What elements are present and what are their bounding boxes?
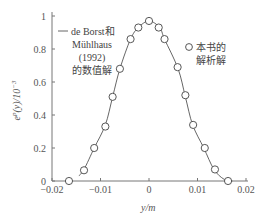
y-tick-label: 0.2: [34, 143, 47, 154]
analytical-solution-point: [211, 166, 218, 173]
analytical-solution-point: [182, 92, 189, 99]
x-axis-title: y/m: [140, 202, 155, 213]
legend-circle-icon: [186, 44, 193, 51]
x-tick-label: −0.01: [89, 184, 112, 195]
legend-label-numerical: 的数值解: [72, 64, 112, 76]
y-axis-title: ep(y)/10−3: [10, 80, 23, 121]
y-tick-label: 0: [41, 176, 46, 187]
y-tick-label: 0.4: [34, 110, 47, 121]
legend-label-analytical: 解析解: [196, 54, 226, 66]
x-tick-label: 0.01: [189, 184, 207, 195]
analytical-solution-point: [80, 167, 87, 174]
legend-label-analytical: 本书的: [196, 41, 226, 53]
analytical-solution-point: [102, 123, 109, 130]
legend-label-numerical: (1992): [79, 52, 106, 64]
analytical-solution-point: [145, 17, 152, 24]
analytical-solution-point: [224, 177, 231, 184]
y-tick-label: 0.8: [34, 44, 47, 55]
chart: −0.02−0.0100.010.0200.20.40.60.81 ep(y)/…: [0, 0, 265, 222]
analytical-solution-point: [65, 177, 72, 184]
analytical-solution-point: [174, 64, 181, 71]
legend-label-numerical: Mühlhaus: [72, 39, 112, 50]
analytical-solution-point: [91, 144, 98, 151]
axes: [52, 12, 248, 181]
analytical-solution-point: [109, 93, 116, 100]
analytical-solution-point: [190, 121, 197, 128]
x-tick-label: 0.02: [237, 184, 255, 195]
analytical-solution-point: [161, 36, 168, 43]
y-tick-label: 0.6: [34, 77, 47, 88]
analytical-solution-point: [155, 24, 162, 31]
analytical-solution-point: [127, 36, 134, 43]
analytical-solution-point: [135, 24, 142, 31]
analytical-solution-point: [201, 144, 208, 151]
legend: de Borst和Mühlhaus(1992)的数值解本书的解析解: [58, 26, 226, 76]
legend-label-numerical: de Borst和: [71, 26, 115, 37]
analytical-solution-point: [116, 65, 123, 72]
ticks: −0.02−0.0100.010.0200.20.40.60.81: [34, 11, 255, 196]
y-tick-label: 1: [41, 11, 46, 22]
x-tick-label: 0: [147, 184, 152, 195]
